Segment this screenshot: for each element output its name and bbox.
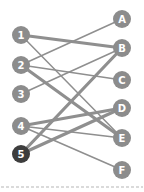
nodes-layer: 12345ABCDEF (12, 10, 131, 179)
node-D: D (113, 99, 131, 117)
node-label: 5 (18, 149, 25, 160)
node-1: 1 (12, 26, 30, 44)
node-label: E (119, 133, 126, 144)
node-4: 4 (12, 117, 30, 135)
node-label: 2 (18, 60, 25, 71)
node-label: F (119, 165, 126, 176)
node-label: D (118, 103, 126, 114)
node-label: B (118, 43, 126, 54)
node-label: 4 (18, 121, 25, 132)
node-3: 3 (12, 85, 30, 103)
node-label: 1 (18, 30, 25, 41)
node-C: C (113, 71, 131, 89)
edge-2-A (21, 19, 122, 65)
edges-layer (21, 19, 122, 170)
node-2: 2 (12, 56, 30, 74)
node-label: 3 (18, 89, 25, 100)
node-5: 5 (12, 145, 30, 163)
edge-5-B (21, 48, 122, 154)
node-label: C (118, 75, 125, 86)
node-B: B (113, 39, 131, 57)
node-E: E (113, 129, 131, 147)
bipartite-graph: 12345ABCDEF (0, 0, 144, 192)
node-A: A (113, 10, 131, 28)
node-F: F (113, 161, 131, 179)
node-label: A (118, 14, 126, 25)
edge-5-D (21, 108, 122, 154)
